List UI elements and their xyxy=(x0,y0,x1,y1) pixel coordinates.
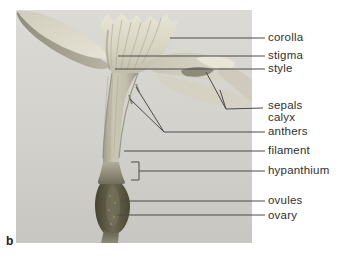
flower-illustration xyxy=(16,10,252,243)
label-ovules: ovules xyxy=(268,194,302,207)
label-hypanthium: hypanthium xyxy=(268,164,329,177)
label-style: style xyxy=(268,62,293,75)
label-calyx: calyx xyxy=(268,111,295,124)
label-corolla: corolla xyxy=(268,31,303,44)
flower-photo xyxy=(16,10,252,243)
figure: corolla stigma style sepals calyx anther… xyxy=(0,0,340,259)
label-stigma: stigma xyxy=(268,49,303,62)
ovary-highlight xyxy=(106,186,120,226)
label-ovary: ovary xyxy=(268,209,297,222)
ovule-dot xyxy=(108,209,110,211)
ovule-dot xyxy=(109,195,111,197)
label-filament: filament xyxy=(268,144,310,157)
label-anthers: anthers xyxy=(268,125,308,138)
ovule-dot xyxy=(114,202,116,204)
ovule-dot xyxy=(113,216,115,218)
panel-letter: b xyxy=(6,234,13,248)
ovule-dot xyxy=(110,223,112,225)
